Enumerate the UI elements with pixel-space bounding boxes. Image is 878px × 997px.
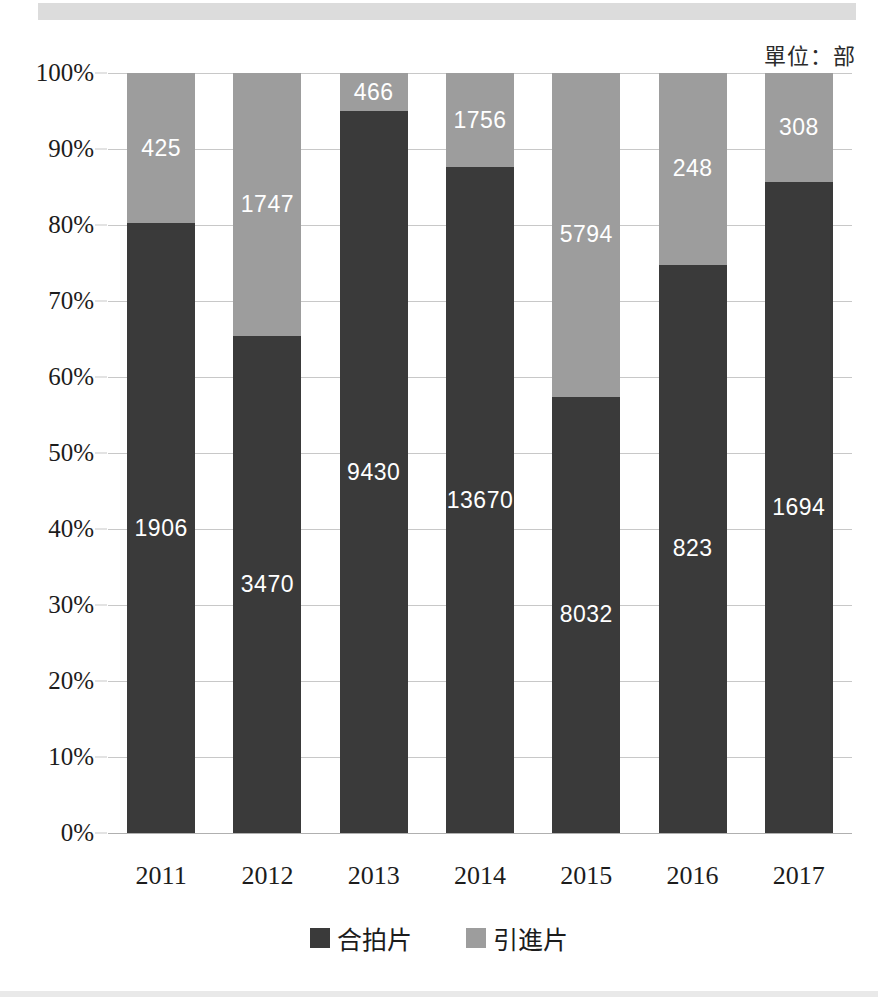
bar-value-label: 308	[779, 116, 819, 139]
bar-segment-imported-2017[interactable]: 308	[765, 73, 833, 182]
scan-banner-strip	[38, 3, 856, 20]
y-axis-tick-label: 70%	[48, 287, 94, 315]
bar-value-label: 1694	[772, 496, 825, 519]
scan-bottom-edge	[0, 991, 878, 997]
gridline-0	[108, 833, 852, 834]
legend-item-合拍片[interactable]: 合拍片	[310, 920, 412, 956]
bar-segment-cooperative-2017[interactable]: 1694	[765, 182, 833, 833]
bar-value-label: 5794	[560, 223, 613, 246]
bar-segment-imported-2015[interactable]: 5794	[552, 73, 620, 397]
bar-segment-imported-2014[interactable]: 1756	[446, 73, 514, 167]
chart-page: 單位：部 100%90%80%70%60%50%40%30%20%10%0% 4…	[0, 0, 878, 997]
y-tick-mark-100	[95, 73, 107, 74]
y-tick-mark-10	[95, 757, 107, 758]
y-tick-mark-30	[95, 605, 107, 606]
y-axis-tick-label: 50%	[48, 439, 94, 467]
legend-item-引進片[interactable]: 引進片	[466, 920, 568, 956]
bar-segment-cooperative-2015[interactable]: 8032	[552, 397, 620, 833]
x-axis-tick-label-2013: 2013	[348, 861, 400, 891]
bar-value-label: 13670	[447, 489, 513, 512]
bar-group-2017[interactable]: 30816942017	[765, 73, 833, 833]
bar-segment-cooperative-2014[interactable]: 13670	[446, 167, 514, 833]
legend-label: 合拍片	[337, 920, 412, 956]
bar-value-label: 823	[673, 537, 713, 560]
y-tick-mark-50	[95, 453, 107, 454]
legend-swatch-icon	[466, 928, 486, 948]
chart-legend: 合拍片引進片	[0, 920, 878, 956]
bar-group-2012[interactable]: 174734702012	[233, 73, 301, 833]
bar-value-label: 1756	[453, 109, 506, 132]
bar-value-label: 9430	[347, 461, 400, 484]
bar-value-label: 466	[354, 81, 394, 104]
bar-group-2011[interactable]: 42519062011	[127, 73, 195, 833]
x-axis-tick-label-2014: 2014	[454, 861, 506, 891]
bar-segment-cooperative-2012[interactable]: 3470	[233, 336, 301, 833]
x-axis-tick-label-2011: 2011	[136, 861, 187, 891]
bar-value-label: 425	[141, 137, 181, 160]
bar-value-label: 1747	[241, 193, 294, 216]
bar-value-label: 8032	[560, 603, 613, 626]
x-axis-tick-label-2015: 2015	[560, 861, 612, 891]
y-tick-mark-20	[95, 681, 107, 682]
y-axis-tick-label: 80%	[48, 211, 94, 239]
bar-value-label: 1906	[135, 517, 188, 540]
x-axis-tick-label-2016: 2016	[667, 861, 719, 891]
bar-value-label: 248	[673, 157, 713, 180]
y-axis-tick-label: 60%	[48, 363, 94, 391]
y-tick-mark-40	[95, 529, 107, 530]
bar-segment-imported-2016[interactable]: 248	[659, 73, 727, 265]
bar-group-2014[interactable]: 1756136702014	[446, 73, 514, 833]
bar-value-label: 3470	[241, 573, 294, 596]
y-axis-tick-label: 90%	[48, 135, 94, 163]
y-axis-tick-label: 20%	[48, 667, 94, 695]
legend-label: 引進片	[493, 920, 568, 956]
unit-label: 單位：部	[764, 38, 856, 70]
y-tick-mark-80	[95, 225, 107, 226]
bar-segment-imported-2011[interactable]: 425	[127, 73, 195, 223]
x-axis-tick-label-2012: 2012	[241, 861, 293, 891]
bar-stack: 57948032	[552, 73, 620, 833]
bar-stack: 3081694	[765, 73, 833, 833]
bar-group-2013[interactable]: 46694302013	[340, 73, 408, 833]
bar-segment-imported-2013[interactable]: 466	[340, 73, 408, 111]
bar-stack: 17473470	[233, 73, 301, 833]
y-axis-tick-label: 40%	[48, 515, 94, 543]
bar-group-2016[interactable]: 2488232016	[659, 73, 727, 833]
bar-segment-cooperative-2011[interactable]: 1906	[127, 223, 195, 833]
bar-stack: 4669430	[340, 73, 408, 833]
bar-segment-imported-2012[interactable]: 1747	[233, 73, 301, 336]
bar-segment-cooperative-2016[interactable]: 823	[659, 265, 727, 833]
y-axis-tick-label: 100%	[36, 59, 94, 87]
y-axis-tick-label: 0%	[61, 819, 94, 847]
bar-segment-cooperative-2013[interactable]: 9430	[340, 111, 408, 833]
plot-area: 100%90%80%70%60%50%40%30%20%10%0% 425190…	[108, 73, 852, 833]
legend-swatch-icon	[310, 928, 330, 948]
y-axis-tick-label: 10%	[48, 743, 94, 771]
y-tick-mark-90	[95, 149, 107, 150]
bar-group-2015[interactable]: 579480322015	[552, 73, 620, 833]
x-axis-tick-label-2017: 2017	[773, 861, 825, 891]
y-tick-mark-60	[95, 377, 107, 378]
y-axis-tick-label: 30%	[48, 591, 94, 619]
bar-stack: 248823	[659, 73, 727, 833]
bar-stack: 4251906	[127, 73, 195, 833]
bar-stack: 175613670	[446, 73, 514, 833]
y-tick-mark-70	[95, 301, 107, 302]
y-tick-mark-0	[95, 833, 107, 834]
